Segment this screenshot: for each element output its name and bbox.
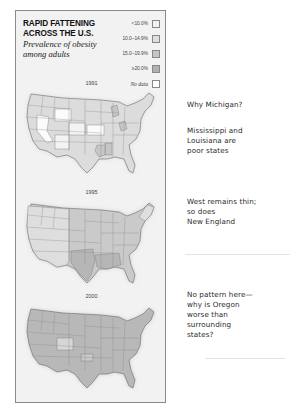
panel-title: RAPID FATTENING ACROSS THE U.S. [23,19,95,38]
annotation-line: No pattern here— [187,290,253,300]
annotation-line: poor states [187,146,243,156]
legend-label: <10.0% [132,21,148,26]
annotation-line: why is Oregon [187,300,253,310]
map-year-label: 1995 [16,189,167,195]
legend-item: <10.0% [100,16,160,31]
annotation-line: surrounding [187,320,253,330]
map-year-label: 2000 [16,293,167,299]
us-map-1995 [23,199,160,291]
panel-subtitle: Prevalence of obesity among adults [23,40,108,59]
legend-item: ≥20.0% [100,61,160,76]
title-line-2: ACROSS THE U.S. [23,29,95,39]
legend-item: 15.0–19.9% [100,46,160,61]
us-map-2000 [23,304,160,396]
faint-rule [205,358,285,359]
legend-swatch [152,35,160,43]
annotation-line: worse than [187,310,253,320]
map-year-label: 1991 [16,80,167,86]
annotation-line: so does [187,207,256,217]
legend-label: ≥20.0% [132,66,148,71]
annotation-west: West remains thin; so does New England [187,197,256,227]
legend-swatch [152,50,160,58]
annotation-line: Why Michigan? [187,100,243,110]
annotation-mississippi: Mississippi and Louisiana are poor state… [187,126,243,156]
obesity-map-panel: RAPID FATTENING ACROSS THE U.S. Prevalen… [15,10,166,403]
annotation-line: states? [187,330,253,340]
us-map-1991 [23,89,160,181]
legend-item: 10.0–14.9% [100,31,160,46]
legend-swatch [152,65,160,73]
title-line-1: RAPID FATTENING [23,19,95,29]
annotation-line: Louisiana are [187,136,243,146]
annotation-line: Mississippi and [187,126,243,136]
legend-label: 10.0–14.9% [122,36,148,41]
annotation-oregon: No pattern here— why is Oregon worse tha… [187,290,253,340]
legend-label: 15.0–19.9% [122,51,148,56]
annotation-michigan: Why Michigan? [187,100,243,110]
legend-swatch [152,20,160,28]
annotation-line: West remains thin; [187,197,256,207]
annotation-line: New England [187,217,256,227]
faint-rule [185,254,290,255]
